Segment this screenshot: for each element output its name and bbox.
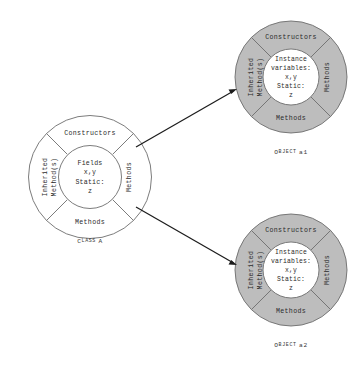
object-a2-segment-left-line2: Method(s) <box>257 251 264 290</box>
class-a-node[interactable]: Constructors Methods Methods Inherited M… <box>29 116 152 245</box>
diagram-svg: Constructors Methods Methods Inherited M… <box>0 0 356 371</box>
object-a1-node[interactable]: Constructors Methods Methods Inherited M… <box>235 21 347 156</box>
object-a1-core-line4: Static: <box>277 83 305 90</box>
object-a1-caption: OBJECTa1 <box>274 149 307 156</box>
class-a-core-line2: x,y <box>84 169 96 176</box>
object-a1-core-line1: Instance <box>275 56 307 63</box>
object-a2-core-line3: x,y <box>285 267 297 274</box>
class-a-segment-bottom: Methods <box>75 219 105 226</box>
object-a1-segment-top: Constructors <box>265 34 317 41</box>
class-a-caption-name: A <box>98 238 102 245</box>
object-a2-caption: OBJECTa2 <box>274 342 307 349</box>
class-a-core-line1: Fields <box>78 160 103 167</box>
object-a2-segment-right: Methods <box>324 255 331 285</box>
object-a2-core-line5: z <box>289 285 293 292</box>
arrow-class-to-a2 <box>136 207 237 265</box>
class-a-caption: CLASSA <box>77 238 103 245</box>
class-a-core-line3: Static: <box>75 179 104 186</box>
object-a1-core-line2: variables: <box>271 65 311 72</box>
object-a2-segment-top: Constructors <box>265 227 317 234</box>
object-a2-node[interactable]: Constructors Methods Methods Inherited M… <box>235 214 347 349</box>
class-a-core-circle <box>59 146 122 209</box>
arrow-class-to-a1 <box>136 89 237 147</box>
class-a-core-line4: z <box>88 188 92 195</box>
object-a2-caption-rest: BJECT <box>279 342 297 348</box>
arrow-class-to-a2-line <box>136 207 234 263</box>
object-a1-segment-right: Methods <box>324 62 331 92</box>
object-a2-caption-name: a2 <box>299 342 308 349</box>
object-a2-segment-bottom: Methods <box>276 308 306 315</box>
object-a2-core-line4: Static: <box>277 276 305 283</box>
class-a-caption-rest: LASS <box>82 238 96 244</box>
object-a1-segment-bottom: Methods <box>276 115 306 122</box>
diagram-canvas: Constructors Methods Methods Inherited M… <box>0 0 356 371</box>
class-a-segment-top: Constructors <box>64 130 116 137</box>
class-a-segment-right: Methods <box>126 162 133 192</box>
object-a1-core-line5: z <box>289 92 293 99</box>
object-a2-core-line1: Instance <box>275 249 307 256</box>
object-a1-core-line3: x,y <box>285 74 297 81</box>
arrow-class-to-a1-line <box>136 91 234 147</box>
object-a1-segment-left-line1: Inherited <box>248 58 255 97</box>
class-a-segment-left-line1: Inherited <box>42 158 49 197</box>
object-a1-segment-left-line2: Method(s) <box>257 58 264 97</box>
object-a2-core-line2: variables: <box>271 258 311 265</box>
class-a-segment-left-line2: Method(s) <box>51 158 58 197</box>
object-a1-caption-name: a1 <box>299 149 308 156</box>
object-a2-segment-left-line1: Inherited <box>248 251 255 290</box>
object-a1-caption-rest: BJECT <box>279 149 297 155</box>
